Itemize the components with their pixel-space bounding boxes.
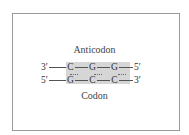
codon-strand: 5′ G C C 3′ <box>40 75 155 85</box>
bond-line <box>75 80 88 81</box>
codon-label: Codon <box>0 90 189 101</box>
bond-line <box>97 67 110 68</box>
codon-right-end: 3′ <box>133 75 142 85</box>
anticodon-right-end: 5′ <box>133 62 142 72</box>
codon-left-end: 5′ <box>40 75 49 85</box>
bond-line <box>49 80 66 81</box>
codon-base-1: G <box>66 75 75 85</box>
anticodon-strand: 3′ C G G 5′ <box>40 62 155 72</box>
bond-line <box>49 67 66 68</box>
bond-line <box>75 67 88 68</box>
anticodon-base-1: C <box>66 62 75 72</box>
bond-line <box>119 80 133 81</box>
anticodon-base-3: G <box>110 62 119 72</box>
anticodon-base-2: G <box>88 62 97 72</box>
bond-line <box>119 67 133 68</box>
codon-base-2: C <box>88 75 97 85</box>
anticodon-label: Anticodon <box>0 44 189 55</box>
bond-line <box>97 80 110 81</box>
anticodon-left-end: 3′ <box>40 62 49 72</box>
codon-base-3: C <box>110 75 119 85</box>
